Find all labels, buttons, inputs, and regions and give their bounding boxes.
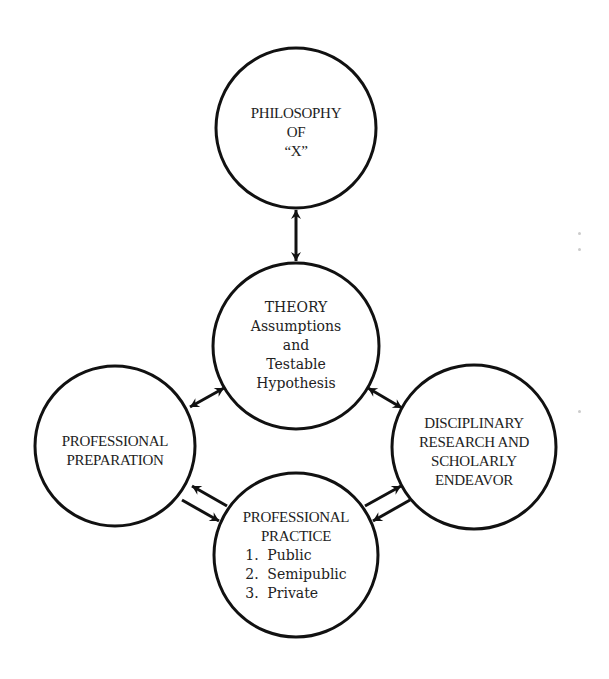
arrow-practice-to-research xyxy=(365,486,401,506)
label-line: “X” xyxy=(236,142,356,161)
label-line: THEORY xyxy=(226,298,366,317)
label-line: PHILOSOPHY xyxy=(236,104,356,123)
node-practice-label: PROFESSIONAL PRACTICE 1.Public 2.Semipub… xyxy=(231,508,361,603)
practice-list-item: 2.Semipublic xyxy=(245,565,346,584)
label-line: PROFESSIONAL xyxy=(231,508,361,527)
label-line: SCHOLARLY xyxy=(409,452,539,471)
arrow-preparation-to-practice xyxy=(182,500,219,521)
label-line: Testable xyxy=(226,355,366,374)
node-theory-label: THEORY Assumptions and Testable Hypothes… xyxy=(226,298,366,393)
practice-list-item: 3.Private xyxy=(245,584,346,603)
label-line: OF xyxy=(236,123,356,142)
scan-speck xyxy=(578,232,581,235)
node-research-label: DISCIPLINARY RESEARCH AND SCHOLARLY ENDE… xyxy=(409,414,539,490)
practice-list: 1.Public 2.Semipublic 3.Private xyxy=(245,546,346,603)
node-preparation-label: PROFESSIONAL PREPARATION xyxy=(50,432,180,470)
practice-list-item: 1.Public xyxy=(245,546,346,565)
label-line: Hypothesis xyxy=(226,374,366,393)
label-line: and xyxy=(226,336,366,355)
label-line: PROFESSIONAL xyxy=(50,432,180,451)
label-line: DISCIPLINARY xyxy=(409,414,539,433)
label-line: ENDEAVOR xyxy=(409,471,539,490)
arrow-theory-research xyxy=(368,388,402,408)
arrow-theory-preparation xyxy=(190,388,224,407)
label-line: PREPARATION xyxy=(50,451,180,470)
label-line: PRACTICE xyxy=(231,527,361,546)
arrow-research-to-practice xyxy=(373,500,410,521)
label-line: Assumptions xyxy=(226,317,366,336)
label-line: RESEARCH AND xyxy=(409,433,539,452)
node-philosophy-label: PHILOSOPHY OF “X” xyxy=(236,104,356,161)
scan-speck xyxy=(578,410,581,413)
scan-speck xyxy=(578,248,581,251)
arrow-practice-to-preparation xyxy=(192,486,227,506)
